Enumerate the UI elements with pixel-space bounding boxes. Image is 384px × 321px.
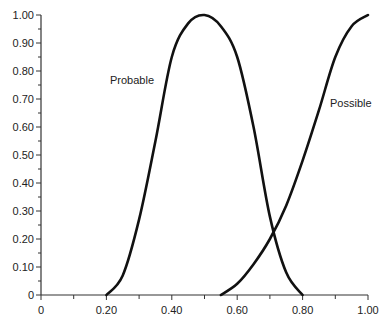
curves — [106, 15, 368, 295]
y-tick-label: 0.20 — [13, 233, 34, 245]
x-tick-label: 0.80 — [292, 304, 313, 316]
y-tick-label: 0.60 — [13, 121, 34, 133]
x-tick-label: 0.60 — [226, 304, 247, 316]
x-tick-label: 0 — [38, 304, 44, 316]
x-tick-label: 0.40 — [161, 304, 182, 316]
y-tick-label: 0.10 — [13, 261, 34, 273]
x-tick-label: 0.20 — [96, 304, 117, 316]
y-tick-label: 0.80 — [13, 65, 34, 77]
x-tick-label: 1.00 — [357, 304, 378, 316]
y-tick-label: 0 — [28, 289, 34, 301]
y-tick-label: 0.50 — [13, 149, 34, 161]
y-tick-label: 0.90 — [13, 37, 34, 49]
possible-label: Possible — [330, 97, 372, 109]
y-tick-label: 0.40 — [13, 177, 34, 189]
probable-curve — [106, 15, 302, 295]
axes: 00.100.200.300.400.500.600.700.800.901.0… — [13, 9, 379, 316]
possible-curve — [221, 15, 368, 295]
membership-chart: 00.100.200.300.400.500.600.700.800.901.0… — [0, 0, 384, 321]
y-tick-label: 1.00 — [13, 9, 34, 21]
y-tick-label: 0.30 — [13, 205, 34, 217]
y-tick-label: 0.70 — [13, 93, 34, 105]
probable-label: Probable — [110, 74, 154, 86]
